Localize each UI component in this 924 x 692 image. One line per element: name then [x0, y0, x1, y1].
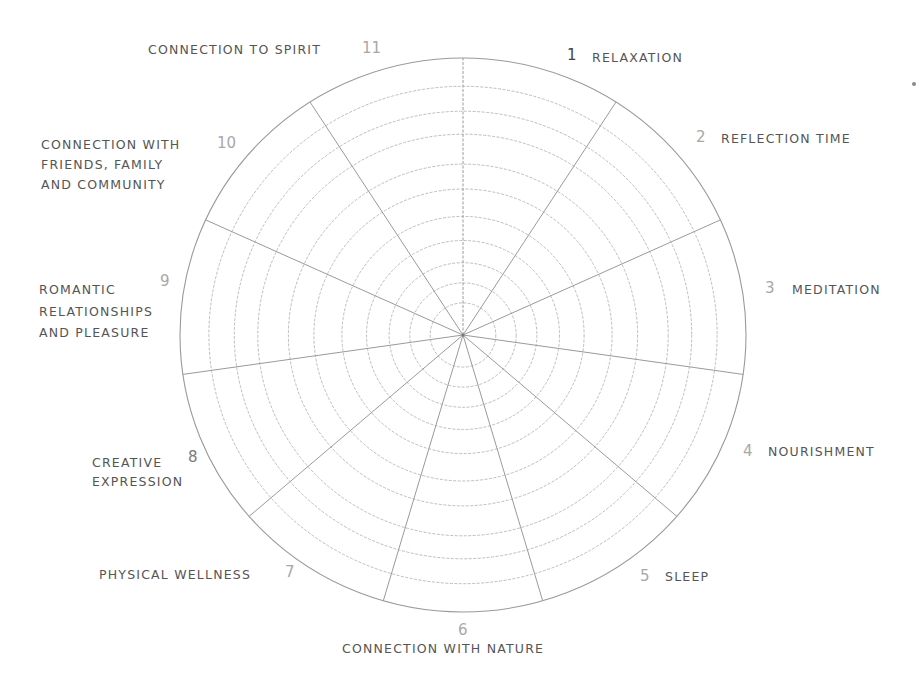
segment-number-7: 7	[285, 563, 295, 581]
segment-label-sleep: SLEEP	[665, 567, 709, 587]
segment-number-3: 3	[765, 279, 775, 297]
segment-number-6: 6	[458, 621, 468, 639]
segment-label-friends-line3: AND COMMUNITY	[41, 175, 166, 195]
segment-number-5: 5	[640, 567, 650, 585]
segment-number-11: 11	[362, 39, 381, 57]
segment-number-1: 1	[567, 46, 577, 64]
segment-label-creative-line1: CREATIVE	[92, 453, 162, 473]
segment-label-relaxation: RELAXATION	[592, 48, 683, 68]
segment-label-reflection-time: REFLECTION TIME	[721, 129, 851, 149]
spoke-line	[206, 220, 463, 335]
spoke-line	[383, 335, 463, 601]
segment-label-friends-line2: FRIENDS, FAMILY	[41, 155, 163, 175]
segment-label-friends-line1: CONNECTION WITH	[41, 135, 180, 155]
segment-label-creative-line2: EXPRESSION	[92, 472, 183, 492]
segment-number-10: 10	[217, 134, 236, 152]
segment-label-connection-to-spirit: CONNECTION TO SPIRIT	[148, 40, 321, 60]
segment-number-4: 4	[743, 442, 753, 460]
spoke-line	[463, 220, 720, 335]
segment-number-8: 8	[188, 448, 198, 466]
spoke-line	[183, 335, 463, 374]
segment-label-nourishment: NOURISHMENT	[768, 442, 875, 462]
segment-label-romantic-line2: RELATIONSHIPS	[39, 302, 153, 322]
wheel-spokes	[183, 58, 743, 601]
spoke-line	[463, 335, 743, 374]
segment-label-meditation: MEDITATION	[792, 280, 881, 300]
spoke-line	[463, 335, 677, 516]
segment-label-romantic-line1: ROMANTIC	[39, 280, 116, 300]
center-point	[462, 334, 465, 337]
decorative-dot	[912, 82, 916, 86]
segment-label-connection-with-nature: CONNECTION WITH NATURE	[342, 639, 544, 659]
segment-number-9: 9	[160, 272, 170, 290]
segment-label-romantic-line3: AND PLEASURE	[39, 323, 150, 343]
spoke-line	[463, 335, 543, 601]
segment-label-physical-wellness: PHYSICAL WELLNESS	[99, 565, 251, 585]
spoke-line	[249, 335, 463, 516]
segment-number-2: 2	[696, 128, 706, 146]
wheel-diagram	[0, 0, 924, 692]
